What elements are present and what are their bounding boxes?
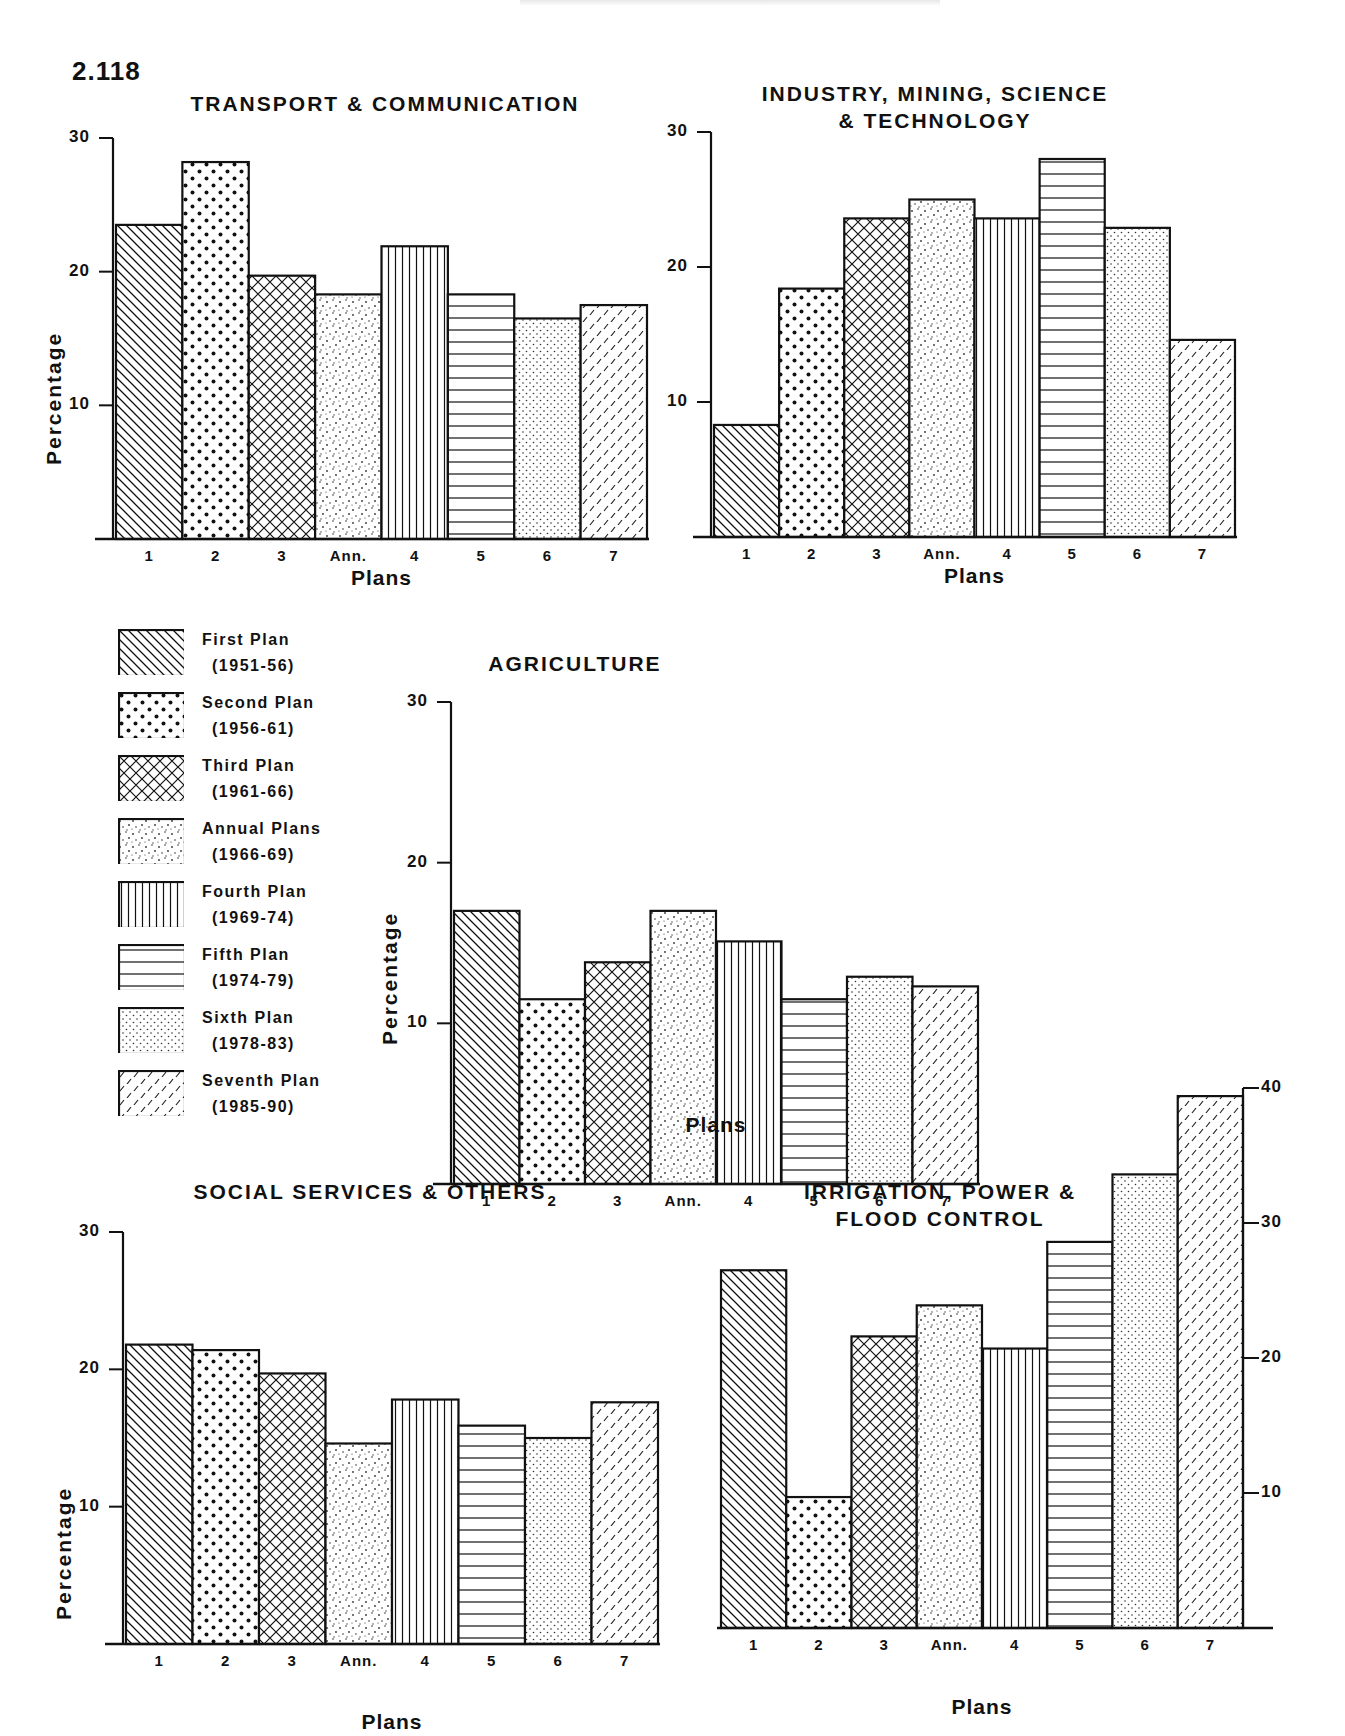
legend-plan-period: (1985-90) (202, 1094, 320, 1120)
legend-label: Annual Plans(1966-69) (202, 816, 321, 868)
y-tick-label: 20 (1261, 1347, 1282, 1367)
legend-plan-name: Second Plan (202, 690, 315, 716)
x-axis-label: Plans (942, 1695, 1022, 1719)
y-tick-label: 30 (1261, 1212, 1282, 1232)
legend-swatch-crosshatch-icon (118, 755, 184, 801)
legend-plan-period: (1978-83) (202, 1031, 295, 1057)
legend-label: Third Plan(1961-66) (202, 753, 295, 805)
chart-title: FLOOD CONTROL (690, 1207, 1190, 1231)
legend-label: Second Plan(1956-61) (202, 690, 315, 742)
legend-swatch-horizontal-icon (118, 944, 184, 990)
bar-irrigation-2 (852, 1336, 917, 1628)
legend-plan-period: (1956-61) (202, 716, 315, 742)
legend-swatch-diag-back-icon (118, 629, 184, 675)
legend-label: First Plan(1951-56) (202, 627, 295, 679)
x-tick-label: 7 (1178, 1636, 1243, 1653)
legend-swatch-dots-big-icon (118, 692, 184, 738)
legend-item: Sixth Plan(1978-83) (118, 1007, 378, 1065)
bar-irrigation-1 (786, 1497, 851, 1628)
x-tick-label: 3 (852, 1636, 917, 1653)
legend-plan-name: Fourth Plan (202, 879, 307, 905)
legend-plan-name: Fifth Plan (202, 942, 295, 968)
legend-swatch-stipple-sparse-icon (118, 818, 184, 864)
x-tick-label: 6 (1113, 1636, 1178, 1653)
x-tick-label: Ann. (917, 1636, 982, 1653)
legend-label: Seventh Plan(1985-90) (202, 1068, 320, 1120)
x-tick-label: 5 (1047, 1636, 1112, 1653)
y-tick-label: 10 (1261, 1482, 1282, 1502)
legend-plan-period: (1951-56) (202, 653, 295, 679)
legend-label: Sixth Plan(1978-83) (202, 1005, 295, 1057)
legend-plan-name: Seventh Plan (202, 1068, 320, 1094)
x-tick-label: 4 (982, 1636, 1047, 1653)
y-tick-label: 40 (1261, 1077, 1282, 1097)
legend-plan-name: Third Plan (202, 753, 295, 779)
chart-title: IRRIGATION, POWER & (690, 1180, 1190, 1204)
x-tick-label: 2 (786, 1636, 851, 1653)
legend-label: Fifth Plan(1974-79) (202, 942, 295, 994)
bar-irrigation-0 (721, 1270, 786, 1628)
legend-item: Fourth Plan(1969-74) (118, 881, 378, 939)
legend-swatch-dashes-icon (118, 1070, 184, 1116)
legend-item: Second Plan(1956-61) (118, 692, 378, 750)
legend-item: Seventh Plan(1985-90) (118, 1070, 378, 1128)
legend-plan-period: (1966-69) (202, 842, 321, 868)
legend-plan-name: Sixth Plan (202, 1005, 295, 1031)
bar-irrigation-3 (917, 1305, 982, 1628)
legend-item: Fifth Plan(1974-79) (118, 944, 378, 1002)
legend-label: Fourth Plan(1969-74) (202, 879, 307, 931)
legend-plan-name: Annual Plans (202, 816, 321, 842)
bar-irrigation-6 (1113, 1174, 1178, 1628)
legend-item: Annual Plans(1966-69) (118, 818, 378, 876)
legend-plan-name: First Plan (202, 627, 295, 653)
bar-irrigation-5 (1047, 1242, 1112, 1628)
legend-item: First Plan(1951-56) (118, 629, 378, 687)
legend-plan-period: (1969-74) (202, 905, 307, 931)
bar-irrigation-4 (982, 1349, 1047, 1628)
x-tick-label: 1 (721, 1636, 786, 1653)
legend-swatch-vertical-icon (118, 881, 184, 927)
legend-plan-period: (1974-79) (202, 968, 295, 994)
bar-irrigation-7 (1178, 1096, 1243, 1628)
legend-item: Third Plan(1961-66) (118, 755, 378, 813)
legend-plan-period: (1961-66) (202, 779, 295, 805)
legend-swatch-stipple-fine-icon (118, 1007, 184, 1053)
